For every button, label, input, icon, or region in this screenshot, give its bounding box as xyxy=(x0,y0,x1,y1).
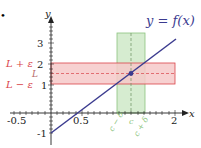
x-tick-neg0.5: -0.5 xyxy=(7,115,26,126)
y-tick-1: 1 xyxy=(41,80,47,91)
label-L-minus-epsilon: L − ε xyxy=(5,79,33,90)
y-tick-neg1: -1 xyxy=(37,128,47,139)
epsilon-delta-diagram: • y x y = f(x) 3 2 1 -1 -0.5 0.5 2 L + ε… xyxy=(0,0,201,148)
label-L-plus-epsilon: L + ε xyxy=(5,58,33,69)
x-axis-arrow-icon xyxy=(182,110,189,116)
point-c-L xyxy=(129,71,134,76)
y-tick-3: 3 xyxy=(37,38,43,49)
x-tick-0.5: 0.5 xyxy=(73,115,89,126)
y-axis-label: y xyxy=(44,8,51,19)
bullet: • xyxy=(0,10,6,21)
label-c: c xyxy=(129,117,134,126)
function-label: y = f(x) xyxy=(145,13,195,28)
label-c-minus-delta: c − δ xyxy=(107,110,125,133)
x-tick-2: 2 xyxy=(171,115,177,126)
label-L: L xyxy=(31,69,38,79)
x-axis-label: x xyxy=(189,108,195,119)
label-c-plus-delta: c + δ xyxy=(132,115,150,138)
